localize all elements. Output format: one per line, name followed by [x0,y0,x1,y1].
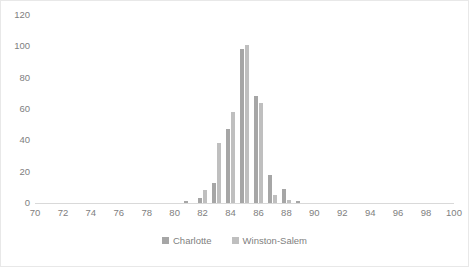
x-axis-tick-label: 78 [141,207,152,218]
bar-winston-salem-84 [231,112,235,203]
histogram-chart: 020406080100120 707274767880828486889092… [0,0,469,267]
y-axis-tick-label: 80 [0,73,30,83]
y-axis-tick-label: 0 [0,198,30,208]
x-axis-tick-label: 92 [337,207,348,218]
y-axis-tick-label: 20 [0,167,30,177]
legend-item-charlotte[interactable]: Charlotte [162,235,212,246]
x-axis-tick-label: 98 [421,207,432,218]
x-axis-line [35,203,454,204]
x-axis-tick-label: 76 [114,207,125,218]
x-axis-tick-label: 88 [281,207,292,218]
plot-area [35,15,454,203]
x-axis-tick-label: 86 [253,207,264,218]
legend-swatch-icon [162,237,169,244]
x-axis-tick-label: 72 [58,207,69,218]
bar-winston-salem-83 [217,143,221,203]
x-axis-tick-label: 90 [309,207,320,218]
bar-charlotte-84 [226,129,230,203]
x-axis-tick-label: 94 [365,207,376,218]
chart-legend: CharlotteWinston-Salem [1,235,468,246]
y-axis-tick-label: 120 [0,10,30,20]
bar-charlotte-87 [268,175,272,203]
x-axis-tick-label: 80 [169,207,180,218]
x-axis: 707274767880828486889092949698100 [35,205,454,221]
x-axis-tick-label: 70 [30,207,41,218]
x-axis-tick-label: 96 [393,207,404,218]
bar-winston-salem-87 [273,195,277,203]
x-axis-tick-label: 82 [197,207,208,218]
bar-charlotte-83 [212,183,216,203]
bar-charlotte-88 [282,189,286,203]
x-axis-tick-label: 100 [446,207,462,218]
x-axis-tick-label: 74 [86,207,97,218]
y-axis-tick-label: 100 [0,41,30,51]
legend-item-winston-salem[interactable]: Winston-Salem [232,235,307,246]
bar-charlotte-85 [240,49,244,203]
legend-swatch-icon [232,237,239,244]
y-axis-tick-label: 60 [0,104,30,114]
x-axis-tick-label: 84 [225,207,236,218]
y-axis-tick-label: 40 [0,135,30,145]
legend-label: Winston-Salem [243,235,307,246]
bar-winston-salem-86 [259,103,263,203]
y-axis: 020406080100120 [1,15,30,203]
legend-label: Charlotte [173,235,212,246]
bar-winston-salem-85 [245,45,249,203]
bar-charlotte-86 [254,96,258,203]
bar-winston-salem-82 [203,190,207,203]
